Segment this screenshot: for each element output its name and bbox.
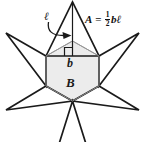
- formula-fraction: 1 2: [105, 11, 111, 28]
- base-label: b: [67, 57, 73, 69]
- slant-height-label: ℓ: [44, 11, 49, 22]
- formula-equals-sign: =: [95, 13, 101, 25]
- area-formula: A = 1 2 bℓ: [85, 11, 121, 28]
- star-point-bottom: [59, 101, 86, 142]
- formula-numerator: 1: [105, 11, 111, 19]
- formula-denominator: 2: [105, 19, 111, 28]
- formula-factors: bℓ: [111, 13, 121, 25]
- hexagon-area-label: B: [66, 76, 75, 89]
- star-point-upper-left: [6, 33, 46, 86]
- geometry-figure: ℓ b B A = 1 2 bℓ: [0, 0, 145, 142]
- star-point-upper-right: [99, 33, 139, 86]
- formula-variable: A: [85, 13, 92, 25]
- star-hexagon-diagram: [0, 0, 145, 142]
